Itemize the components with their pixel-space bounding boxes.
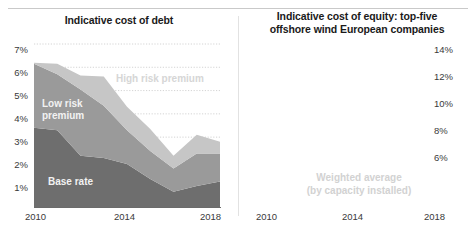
xtick-right-2010: 2010: [256, 212, 277, 222]
chart-title-line-1: Indicative cost of equity: top-five: [277, 10, 437, 22]
ytick-right-10: 10%: [434, 99, 468, 109]
figure-root: Indicative cost of debt 7% 6% 5% 4% 3% 2…: [0, 0, 476, 235]
series-label-high-risk-premium: High risk premium: [116, 73, 204, 85]
ytick-right-14: 14%: [434, 45, 468, 55]
ytick-left-3: 3%: [6, 137, 28, 147]
ytick-left-5: 5%: [6, 91, 28, 101]
panel-cost-of-equity: Indicative cost of equity: top-five offs…: [238, 0, 476, 235]
ytick-left-6: 6%: [6, 68, 28, 78]
chart-title-line-2: offshore wind European companies: [270, 23, 445, 35]
xtick-right-2014: 2014: [342, 212, 363, 222]
ytick-right-12: 12%: [434, 72, 468, 82]
ytick-left-4: 4%: [6, 114, 28, 124]
annotation-weighted-average-line-1: Weighted average: [294, 172, 424, 184]
chart-title-cost-of-equity: Indicative cost of equity: top-five offs…: [238, 10, 476, 36]
series-label-base-rate: Base rate: [48, 176, 93, 188]
chart-title-cost-of-debt: Indicative cost of debt: [0, 14, 238, 27]
xtick-right-2018: 2018: [424, 212, 445, 222]
series-label-low-risk-premium: Low risk premium: [42, 98, 84, 122]
ytick-right-6: 6%: [434, 153, 468, 163]
xtick-left-2014: 2014: [114, 212, 135, 222]
ytick-left-7: 7%: [6, 45, 28, 55]
xtick-left-2010: 2010: [25, 212, 46, 222]
ytick-left-1: 1%: [6, 183, 28, 193]
panel-cost-of-debt: Indicative cost of debt 7% 6% 5% 4% 3% 2…: [0, 0, 238, 235]
ytick-left-2: 2%: [6, 160, 28, 170]
xtick-left-2018: 2018: [200, 212, 221, 222]
x-axis-line-cost-of-debt: [34, 207, 221, 208]
annotation-weighted-average-line-2: (by capacity installed): [294, 185, 424, 197]
ytick-right-8: 8%: [434, 126, 468, 136]
